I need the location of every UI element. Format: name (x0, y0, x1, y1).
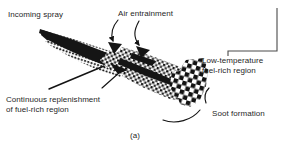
soot-formation-leader-lower (163, 110, 200, 122)
label-continuous-line2: of fuel-rich region (6, 105, 100, 115)
label-low-temperature-line1: Low-temperature (202, 56, 263, 66)
continuous-replenishment-stem (102, 72, 120, 88)
label-low-temperature-fuel-rich-region: Low-temperature fuel-rich region (202, 56, 263, 75)
spray-flame-diagram (0, 0, 282, 151)
air-entrainment-leader-right (135, 21, 139, 45)
label-air-entrainment-text: Air entrainment (118, 9, 173, 19)
label-soot-formation-text: Soot formation (212, 109, 265, 119)
label-air-entrainment: Air entrainment (118, 9, 173, 19)
label-continuous-replenishment: Continuous replenishment of fuel-rich re… (6, 95, 100, 114)
continuous-replenishment-leader (49, 66, 104, 89)
figure-caption: (a) (130, 131, 140, 141)
label-low-temperature-line2: fuel-rich region (202, 66, 263, 76)
figure-caption-text: (a) (130, 131, 140, 141)
label-continuous-line1: Continuous replenishment (6, 95, 100, 105)
air-entrainment-leader-left (112, 20, 118, 41)
soot-formation-leader-upper (205, 88, 209, 103)
label-incoming-spray-text: Incoming spray (8, 10, 63, 20)
label-incoming-spray: Incoming spray (8, 10, 63, 20)
label-soot-formation: Soot formation (212, 109, 265, 119)
low-temperature-bracket (228, 8, 277, 56)
